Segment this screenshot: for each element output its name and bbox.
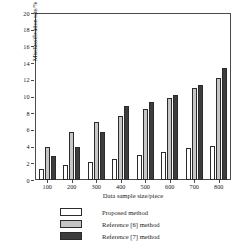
bar	[198, 85, 203, 180]
bar	[88, 162, 93, 180]
y-tick-label: 20	[23, 9, 29, 18]
y-tick-mark	[31, 163, 34, 164]
legend-swatch	[60, 208, 82, 216]
y-tick-mark	[31, 147, 34, 148]
y-axis-tick: 12	[0, 80, 34, 81]
y-tick-label: 14	[23, 59, 29, 68]
bar	[192, 88, 197, 180]
legend-label: Proposed method	[102, 209, 148, 216]
y-tick-mark	[31, 97, 34, 98]
bar	[51, 156, 56, 180]
legend-item: Proposed method	[60, 206, 230, 218]
y-axis-tick: 6	[0, 130, 34, 131]
y-axis-tick: 18	[0, 30, 34, 31]
legend-item: Reference [7] method	[60, 230, 230, 242]
bar	[118, 116, 123, 180]
y-axis-tick: 14	[0, 63, 34, 64]
legend-label: Reference [6] method	[102, 221, 159, 228]
y-axis-tick: 2	[0, 163, 34, 164]
y-tick-label: 8	[26, 109, 29, 118]
x-tick-label: 200	[60, 183, 84, 191]
y-tick-label: 0	[26, 176, 29, 185]
y-axis-tick: 20	[0, 13, 34, 14]
bar	[112, 159, 117, 180]
chart-legend: Proposed methodReference [6] methodRefer…	[60, 206, 230, 242]
bar	[124, 106, 129, 180]
x-tick-label: 700	[182, 183, 206, 191]
bar	[75, 147, 80, 180]
legend-label: Reference [7] method	[102, 233, 159, 240]
y-axis-tick: 4	[0, 147, 34, 148]
bar	[63, 165, 68, 180]
x-tick-label: 600	[158, 183, 182, 191]
bar	[186, 148, 191, 180]
bar	[143, 109, 148, 180]
bar	[100, 132, 105, 180]
y-tick-mark	[31, 80, 34, 81]
bar	[173, 95, 178, 180]
bar	[94, 122, 99, 180]
y-axis-tick: 8	[0, 113, 34, 114]
bar	[222, 68, 227, 180]
y-tick-label: 12	[23, 75, 29, 84]
y-tick-label: 4	[26, 142, 29, 151]
bar	[216, 78, 221, 180]
legend-item: Reference [6] method	[60, 218, 230, 230]
y-axis-tick: 10	[0, 97, 34, 98]
y-tick-label: 16	[23, 42, 29, 51]
legend-swatch	[60, 232, 82, 240]
y-tick-label: 2	[26, 159, 29, 168]
bar	[39, 169, 44, 180]
y-tick-mark	[31, 63, 34, 64]
y-tick-label: 10	[23, 92, 29, 101]
bar	[161, 152, 166, 180]
y-axis-tick: 16	[0, 46, 34, 47]
y-tick-mark	[31, 30, 34, 31]
y-tick-label: 18	[23, 25, 29, 34]
bar	[137, 155, 142, 180]
bar	[149, 102, 154, 180]
x-tick-label: 800	[207, 183, 231, 191]
x-tick-label: 500	[133, 183, 157, 191]
bar	[69, 132, 74, 180]
legend-swatch	[60, 220, 82, 228]
x-tick-label: 300	[84, 183, 108, 191]
y-tick-label: 6	[26, 125, 29, 134]
y-tick-mark	[31, 46, 34, 47]
bar	[45, 147, 50, 180]
x-tick-label: 400	[109, 183, 133, 191]
y-tick-mark	[31, 113, 34, 114]
x-tick-label: 100	[35, 183, 59, 191]
chart-figure: Misclassification rate/% 024681012141618…	[0, 0, 246, 248]
bar	[167, 98, 172, 180]
y-tick-mark	[31, 180, 34, 181]
y-tick-mark	[31, 13, 34, 14]
x-axis-label: Data sample size/piece	[35, 192, 231, 199]
bar	[210, 146, 215, 180]
y-axis-tick: 0	[0, 180, 34, 181]
y-tick-mark	[31, 130, 34, 131]
